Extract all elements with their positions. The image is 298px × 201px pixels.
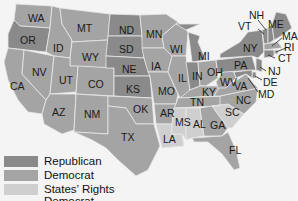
label-mn: MN bbox=[146, 28, 162, 40]
label-az: AZ bbox=[52, 106, 66, 118]
state-nj bbox=[256, 58, 262, 72]
label-ms: MS bbox=[175, 116, 191, 128]
label-ks: KS bbox=[126, 83, 140, 95]
legend-label: Republican bbox=[44, 155, 102, 167]
label-id: ID bbox=[53, 42, 64, 54]
label-mo: MO bbox=[158, 85, 175, 97]
label-va: VA bbox=[234, 80, 247, 92]
label-mt: MT bbox=[77, 22, 93, 34]
legend-item-states-rights: States’ Rights Democrat bbox=[4, 183, 116, 201]
label-pa: PA bbox=[234, 59, 247, 71]
label-de: DE bbox=[263, 76, 278, 88]
label-ia: IA bbox=[151, 60, 161, 72]
label-nc: NC bbox=[236, 94, 252, 106]
label-ut: UT bbox=[59, 74, 74, 86]
label-wy: WY bbox=[82, 51, 99, 63]
label-il: IL bbox=[178, 72, 187, 84]
label-or: OR bbox=[20, 34, 36, 46]
label-fl: FL bbox=[229, 144, 241, 156]
label-la: LA bbox=[163, 133, 176, 145]
label-nm: NM bbox=[84, 108, 100, 120]
label-ne: NE bbox=[122, 63, 137, 75]
label-ok: OK bbox=[133, 103, 148, 115]
label-sc: SC bbox=[225, 106, 240, 118]
legend-item-democrat: Democrat bbox=[4, 169, 116, 183]
label-sd: SD bbox=[119, 43, 134, 55]
label-ky: KY bbox=[202, 86, 216, 98]
label-al: AL bbox=[193, 118, 206, 130]
legend: Republican Democrat States’ Rights Democ… bbox=[4, 155, 116, 201]
swatch-states-rights bbox=[4, 184, 38, 195]
label-tx: TX bbox=[121, 131, 134, 143]
legend-item-republican: Republican bbox=[4, 155, 116, 169]
label-ca: CA bbox=[10, 80, 25, 92]
label-tn: TN bbox=[190, 96, 204, 108]
state-de bbox=[252, 72, 256, 78]
label-me: ME bbox=[268, 18, 284, 30]
label-wi: WI bbox=[170, 43, 183, 55]
label-md: MD bbox=[258, 88, 275, 100]
label-nv: NV bbox=[32, 66, 47, 78]
label-co: CO bbox=[88, 78, 104, 90]
label-vt: VT bbox=[238, 20, 252, 32]
label-mi: MI bbox=[198, 50, 210, 62]
label-ga: GA bbox=[210, 119, 225, 131]
swatch-republican bbox=[4, 156, 38, 167]
label-wa: WA bbox=[28, 12, 45, 24]
label-nd: ND bbox=[119, 24, 135, 36]
label-ct: CT bbox=[278, 52, 293, 64]
legend-label: States’ Rights Democrat bbox=[44, 183, 116, 201]
label-ar: AR bbox=[160, 107, 175, 119]
label-ny: NY bbox=[243, 42, 258, 54]
swatch-democrat bbox=[4, 170, 38, 181]
label-in: IN bbox=[192, 70, 203, 82]
legend-label: Democrat bbox=[44, 169, 94, 181]
